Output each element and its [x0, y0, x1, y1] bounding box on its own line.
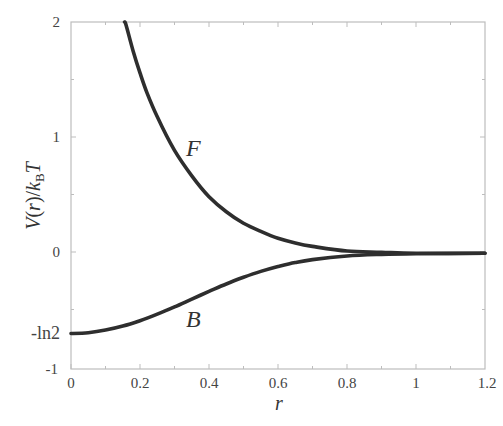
y-label-t: T — [22, 160, 44, 173]
y-tick-label: 1 — [53, 129, 61, 145]
x-tick-label: 1 — [412, 375, 420, 391]
x-ticks — [71, 22, 451, 369]
curve-f — [125, 22, 486, 253]
svg-text:V(r)/kBT: V(r)/kBT — [22, 160, 47, 229]
y-tick-label: 0 — [53, 244, 61, 260]
y-ticks — [71, 80, 485, 310]
curve-b-label: B — [186, 306, 201, 332]
y-label-r: r — [22, 203, 44, 211]
x-tick-label: 0.8 — [338, 375, 357, 391]
x-tick-label: 0.4 — [200, 375, 219, 391]
y-axis-label: V(r)/kBT — [22, 160, 47, 229]
x-axis-label: r — [275, 392, 283, 414]
x-tick-label: 0.2 — [131, 375, 150, 391]
chart-canvas: 0 0.2 0.4 0.6 0.8 1 1.2 2 1 0 -ln2 -1 r … — [0, 0, 503, 426]
curve-b — [71, 253, 485, 333]
plot-frame — [71, 22, 485, 369]
x-tick-label: 0.6 — [269, 375, 288, 391]
y-label-close: )/ — [22, 190, 45, 203]
x-tick-label: 0 — [67, 375, 75, 391]
x-tick-labels: 0 0.2 0.4 0.6 0.8 1 1.2 — [67, 375, 496, 391]
x-tick-label: 1.2 — [478, 375, 497, 391]
y-tick-label: 2 — [53, 14, 61, 30]
y-tick-label: -1 — [46, 361, 59, 377]
curve-f-label: F — [185, 135, 201, 161]
y-label-sub: B — [32, 173, 47, 182]
y-tick-label: -ln2 — [31, 323, 60, 343]
